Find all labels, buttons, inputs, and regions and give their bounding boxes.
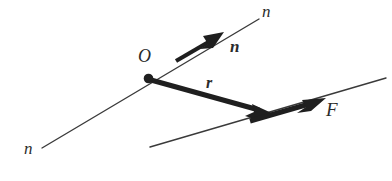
force-label-F: F	[326, 100, 338, 119]
axis-label-n-top: n	[262, 3, 271, 20]
position-vector-r	[151, 80, 276, 120]
position-vector-label-r: r	[206, 75, 212, 91]
unit-vector-label-n: n	[230, 38, 239, 55]
unit-vector-n	[176, 32, 224, 61]
origin-point-O	[144, 74, 154, 84]
diagram-svg	[0, 0, 392, 181]
figure-canvas: n n n O r F	[0, 0, 392, 181]
origin-label-O: O	[138, 47, 151, 65]
axis-label-n-bottom: n	[24, 140, 33, 157]
axis-line-nn	[42, 19, 259, 148]
